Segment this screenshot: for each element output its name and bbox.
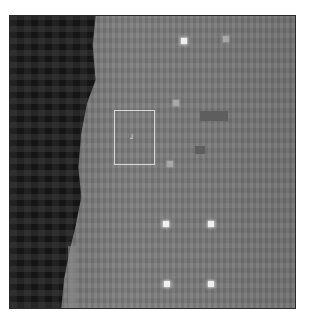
- bright-spot: [223, 36, 229, 42]
- roi-marker: ɹ: [130, 133, 133, 141]
- bright-spot: [163, 221, 169, 227]
- edge-band: [68, 246, 76, 309]
- bright-spot: [164, 281, 170, 287]
- bright-spot: [181, 38, 187, 44]
- image-frame: ɹ: [9, 15, 296, 309]
- bright-spot: [208, 221, 214, 227]
- bright-spot: [173, 100, 179, 106]
- bright-spot: [208, 281, 214, 287]
- dark-patch: [200, 111, 228, 121]
- roi-box[interactable]: ɹ: [114, 110, 155, 165]
- dark-patch: [195, 146, 205, 154]
- bright-spot: [167, 161, 173, 167]
